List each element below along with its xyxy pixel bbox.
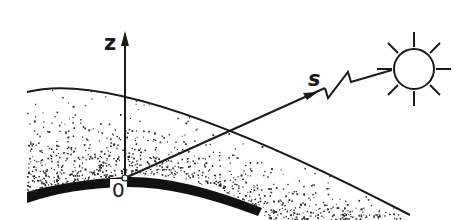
z-axis-label: z <box>104 33 116 54</box>
earth-surface <box>27 177 262 216</box>
slant-path-zigzag <box>325 70 392 98</box>
atmosphere-diagram <box>0 0 472 220</box>
ray-label: s <box>308 69 321 90</box>
z-axis-arrowhead-icon <box>121 31 129 46</box>
origin-label: 0 <box>112 180 125 200</box>
slant-path-arrowhead-icon <box>303 92 318 100</box>
sun-icon <box>377 32 451 106</box>
